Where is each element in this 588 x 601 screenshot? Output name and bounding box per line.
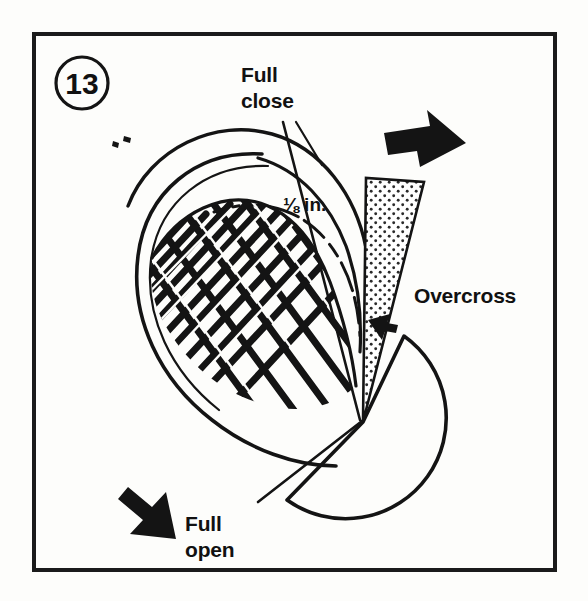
label-full-open-line2: open (185, 538, 234, 561)
label-full-close-line1: Full (241, 63, 278, 86)
figure-panel: 13 Full close ⅛ in. Overcross Full open (0, 0, 588, 601)
badge-number-text: 13 (65, 67, 98, 100)
label-dimension: ⅛ in. (283, 194, 326, 215)
figure-illustration: 13 Full close ⅛ in. Overcross Full open (0, 0, 588, 601)
label-full-open-line1: Full (185, 512, 222, 535)
label-full-close-line2: close (241, 89, 294, 112)
label-overcross: Overcross (414, 284, 516, 307)
